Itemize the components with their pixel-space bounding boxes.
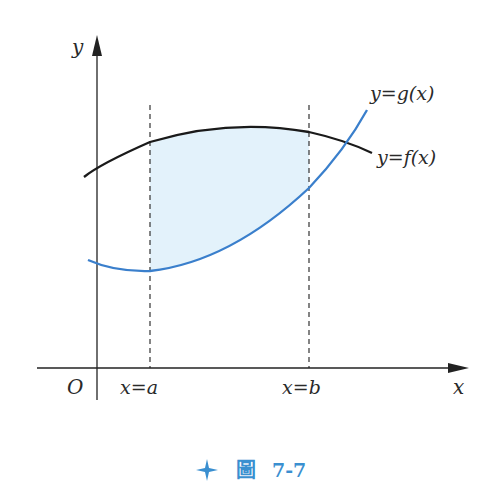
caption-number: 7-7 xyxy=(272,459,306,481)
x-equals-b-label: x=b xyxy=(282,376,321,398)
caption-prefix: 圖 xyxy=(236,458,256,482)
figure-7-7: y x O x=a x=b y=g(x) y=f(x) 圖 7-7 xyxy=(0,0,489,498)
shaded-area xyxy=(150,127,309,271)
x-axis-arrow-icon xyxy=(448,363,469,373)
x-axis-label: x xyxy=(453,375,464,399)
caption: 圖 7-7 xyxy=(196,458,306,482)
origin-label: O xyxy=(67,375,83,399)
f-curve-label: y=f(x) xyxy=(376,146,436,168)
g-curve-label: y=g(x) xyxy=(369,82,434,104)
area-between-curves-diagram: y x O x=a x=b y=g(x) y=f(x) 圖 7-7 xyxy=(0,0,489,498)
y-axis-arrow-icon xyxy=(92,35,102,56)
sparkle-icon xyxy=(196,459,218,481)
y-axis-label: y xyxy=(71,35,84,59)
x-equals-a-label: x=a xyxy=(120,376,158,398)
